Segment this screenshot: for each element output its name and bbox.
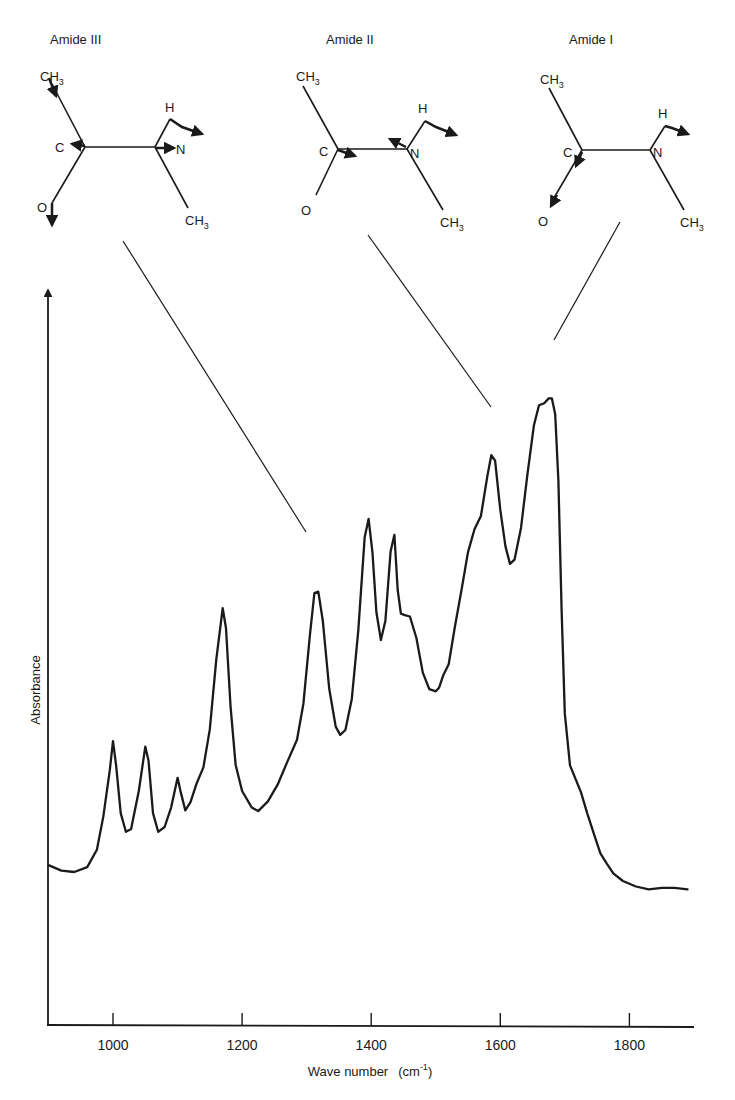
atom-ch3-top: CH3 (296, 69, 320, 87)
x-tick-label: 1400 (356, 1037, 387, 1053)
atom-ch3-top: CH3 (540, 72, 564, 90)
bond-c-o (52, 147, 85, 203)
atom-n: N (176, 142, 185, 157)
x-tick-label: 1000 (97, 1037, 128, 1053)
leader-line-amide-ii (368, 235, 491, 407)
leader-line-amide-iii (123, 241, 306, 532)
x-tick-label: 1600 (485, 1037, 516, 1053)
bond-n-h (407, 121, 425, 149)
atom-n: N (653, 145, 662, 160)
leader-line-amide-i (554, 222, 620, 340)
atom-h: H (418, 101, 427, 116)
bond-c-ch3 (52, 84, 85, 147)
amide-iii-diagram: Amide III CH3 C N H O CH3 (37, 32, 209, 231)
chart-axes: 10001200140016001800 Absorbance Wave num… (28, 290, 694, 1079)
c-displacement-arrow-icon (338, 150, 355, 156)
bond-c-ch3 (303, 86, 338, 149)
atom-c: C (319, 144, 328, 159)
annotation-leader-lines (123, 222, 620, 532)
atom-o: O (37, 200, 47, 215)
bond-n-h (155, 119, 170, 147)
x-tick-label: 1800 (614, 1037, 645, 1053)
x-axis-title: Wave number(cm-1) (308, 1062, 432, 1079)
absorbance-spectrum-line (49, 398, 688, 889)
amide-ii-diagram: Amide II CH3 C N H O CH3 (296, 32, 464, 233)
atom-h: H (658, 106, 667, 121)
y-axis-title: Absorbance (28, 655, 43, 724)
amide-iii-title: Amide III (50, 32, 101, 47)
ir-spectrum-figure: Amide III CH3 C N H O CH3 Amide II CH3 C… (0, 0, 735, 1100)
atom-ch3-bottom: CH3 (680, 215, 704, 233)
h-displacement-arrow-icon (665, 126, 688, 134)
atom-o: O (301, 203, 311, 218)
x-axis-ticks: 10001200140016001800 (97, 1013, 645, 1053)
atom-ch3-bottom: CH3 (185, 213, 209, 231)
amide-i-title: Amide I (569, 32, 613, 47)
atom-ch3-bottom: CH3 (440, 215, 464, 233)
atom-c: C (55, 140, 64, 155)
amide-i-diagram: Amide I CH3 C N H O CH3 (538, 32, 704, 233)
atom-o: O (538, 214, 548, 229)
atom-h: H (165, 100, 174, 115)
n-displacement-arrow-icon (390, 139, 406, 147)
bond-c-ch3 (549, 88, 582, 150)
atom-n: N (410, 146, 419, 161)
h-displacement-arrow-icon (425, 121, 456, 135)
h-displacement-arrow-icon (170, 119, 202, 134)
atom-c: C (563, 145, 572, 160)
amide-ii-title: Amide II (326, 32, 374, 47)
x-tick-label: 1200 (227, 1037, 258, 1053)
